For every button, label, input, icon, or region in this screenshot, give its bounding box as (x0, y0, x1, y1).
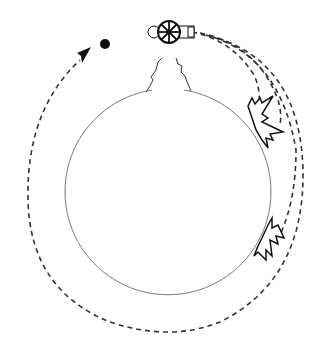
trajectory-medium (200, 33, 281, 125)
earth (65, 90, 271, 295)
mountain-icon (146, 58, 191, 92)
trajectory-short (192, 32, 259, 110)
trajectory-long (206, 35, 296, 235)
trajectories (28, 32, 303, 332)
newtons-cannonball-diagram (0, 0, 333, 358)
cannon-icon (148, 21, 194, 43)
cannonball-icon (100, 39, 110, 49)
impact-icon (248, 96, 283, 148)
impact-icon (254, 218, 284, 260)
trajectory-orbit (28, 36, 303, 332)
